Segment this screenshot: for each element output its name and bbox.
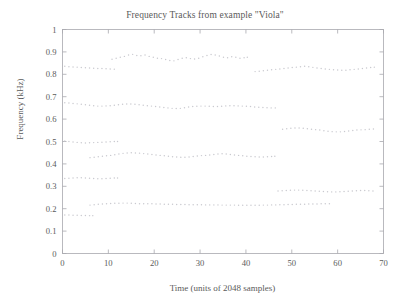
svg-text:30: 30 — [196, 258, 205, 268]
series-track-6-left-0p50 — [64, 140, 118, 143]
svg-text:0.3: 0.3 — [46, 181, 57, 191]
svg-text:60: 60 — [333, 258, 342, 268]
svg-text:20: 20 — [150, 258, 159, 268]
series-track-7-0p43 — [89, 152, 275, 158]
series-track-1-upper-left — [64, 66, 115, 70]
svg-text:0: 0 — [52, 249, 56, 259]
svg-text:0.4: 0.4 — [46, 159, 57, 169]
series-track-2-upper-mid — [111, 54, 248, 62]
series-track-3-upper-right — [254, 66, 375, 73]
y-axis-label: Frequency (kHz) — [15, 49, 25, 169]
svg-text:10: 10 — [104, 258, 113, 268]
svg-text:40: 40 — [242, 258, 251, 268]
svg-text:0.7: 0.7 — [46, 92, 57, 102]
figure-chart-frequency-tracks: Frequency Tracks from example "Viola" 01… — [0, 0, 410, 305]
svg-text:0.5: 0.5 — [46, 137, 57, 147]
svg-text:50: 50 — [287, 258, 296, 268]
svg-text:70: 70 — [379, 258, 388, 268]
series-track-8-0p28-right — [277, 189, 373, 192]
series-track-11-0p17-left — [64, 214, 93, 216]
svg-text:0.9: 0.9 — [46, 47, 57, 57]
svg-text:0: 0 — [60, 258, 64, 268]
svg-text:0.2: 0.2 — [46, 204, 57, 214]
series-track-5-mid-right — [282, 127, 374, 132]
series-track-4-mid-left — [64, 102, 276, 109]
series-track-9-0p33-left — [64, 177, 118, 179]
svg-text:0.6: 0.6 — [46, 114, 57, 124]
x-axis-ticks: 010203040506070 — [60, 30, 387, 268]
svg-text:0.1: 0.1 — [46, 226, 57, 236]
x-axis-label: Time (units of 2048 samples) — [62, 283, 383, 293]
plot-canvas: 010203040506070 00.10.20.30.40.50.60.70.… — [0, 0, 410, 305]
svg-text:1: 1 — [52, 25, 56, 35]
series-track-10-0p22-long — [89, 202, 330, 206]
y-axis-ticks: 00.10.20.30.40.50.60.70.80.91 — [46, 25, 384, 259]
svg-text:0.8: 0.8 — [46, 69, 57, 79]
data-series-group — [64, 54, 375, 217]
